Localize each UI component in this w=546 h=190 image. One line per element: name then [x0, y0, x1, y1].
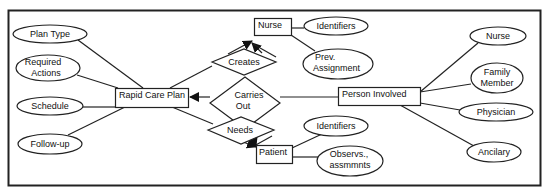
- attribute-label: Family: [484, 67, 511, 77]
- entity-label: Person Involved: [342, 89, 407, 99]
- attribute-schedule: Schedule: [17, 97, 83, 115]
- attribute-prev-assignment: Prev. Assignment: [303, 49, 373, 79]
- attribute-patient-identifiers: Identifiers: [304, 116, 368, 136]
- attribute-label: Observs.,: [330, 149, 369, 159]
- entity-patient: Patient: [257, 146, 293, 164]
- entity-nurse: Nurse: [255, 19, 292, 36]
- attribute-label: Ancilary: [478, 147, 511, 157]
- attribute-follow-up: Follow-up: [18, 134, 82, 154]
- er-diagram: Plan Type Required Actions Schedule Foll…: [0, 0, 546, 190]
- attribute-observations: Observs., assmmnts: [317, 146, 383, 176]
- attribute-physician: Physician: [459, 103, 533, 121]
- attribute-label: Assignment: [313, 63, 361, 73]
- relationship-label: Needs: [227, 125, 254, 135]
- entity-label: Patient: [259, 147, 288, 157]
- attribute-family-member: Family Member: [471, 63, 523, 93]
- attribute-label: Member: [480, 78, 513, 88]
- attribute-plan-type: Plan Type: [13, 25, 87, 43]
- attribute-label: Identifiers: [316, 121, 356, 131]
- attribute-label: Schedule: [31, 101, 69, 111]
- attribute-label: Identifiers: [316, 21, 356, 31]
- entity-person-involved: Person Involved: [339, 88, 421, 106]
- attribute-label: Physician: [477, 107, 516, 117]
- entity-rapid-care-plan: Rapid Care Plan: [116, 89, 189, 108]
- attribute-person-nurse: Nurse: [470, 27, 526, 45]
- attribute-label: assmmnts: [329, 160, 371, 170]
- attribute-label: Actions: [31, 68, 61, 78]
- entity-label: Nurse: [258, 20, 282, 30]
- attribute-label: Required: [25, 57, 62, 67]
- attribute-required-actions: Required Actions: [16, 55, 80, 81]
- relationship-label: Carries: [234, 90, 264, 100]
- attribute-nurse-identifiers: Identifiers: [304, 17, 368, 35]
- attribute-label: Plan Type: [30, 29, 70, 39]
- attribute-label: Follow-up: [30, 139, 69, 149]
- relationship-label: Creates: [228, 57, 260, 67]
- attribute-label: Nurse: [486, 31, 510, 41]
- relationship-creates: Creates: [212, 49, 276, 75]
- entity-label: Rapid Care Plan: [119, 90, 185, 100]
- relationship-label: Out: [236, 101, 251, 111]
- attribute-label: Prev.: [315, 52, 335, 62]
- attribute-ancilary: Ancilary: [467, 142, 521, 162]
